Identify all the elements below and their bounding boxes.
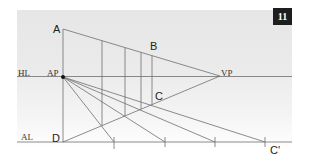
edge-d-vp	[63, 76, 220, 142]
label-a: A	[53, 24, 60, 35]
label-c: C	[155, 91, 163, 102]
label-vp: VP	[221, 69, 233, 78]
label-ap: AP	[47, 69, 59, 78]
label-d: D	[52, 133, 60, 144]
edge-a-vp	[63, 29, 220, 76]
measuring-line-4	[63, 77, 265, 142]
anchor-point-dot	[61, 75, 65, 79]
label-hl: HL	[18, 69, 30, 78]
label-al: AL	[21, 133, 33, 142]
perspective-diagram	[0, 0, 309, 163]
measuring-line-1	[63, 77, 114, 142]
label-c-prime: C'	[270, 145, 280, 156]
label-b: B	[150, 41, 157, 52]
measuring-line-2	[63, 77, 165, 142]
